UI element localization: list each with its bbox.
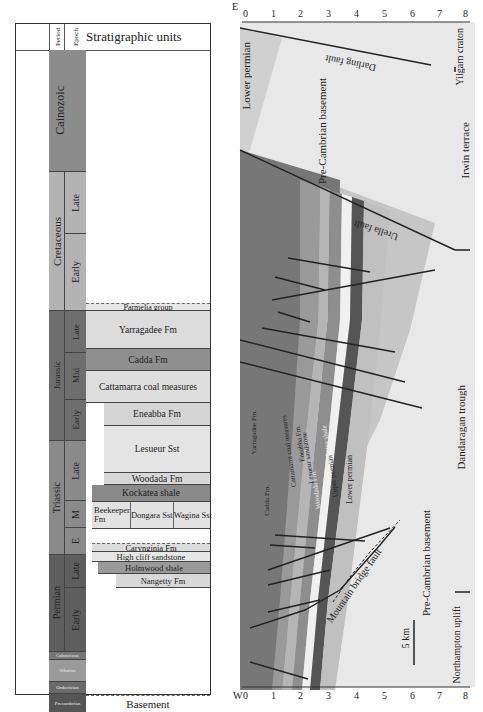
label-cadda: Cadda Fm. [263, 485, 271, 516]
unit-cadda: Cadda Fm [86, 349, 210, 371]
label-northampton-uplift: Northampton uplift [451, 606, 475, 684]
period-jurassic: Jurassic [49, 311, 64, 441]
period-silurian: Silurian [49, 660, 86, 682]
unit-permian-late-group: Beekeeper Fm Dongara Sst Wagina Sst [92, 502, 210, 529]
tick-top-7: 7 [437, 8, 442, 19]
label-precambrian-basement-top: Pre-Cambrian basement [316, 78, 328, 184]
column-title: Stratigraphic units [86, 29, 182, 45]
tick-bottom-3: 3 [326, 690, 331, 701]
unit-yarragadee: Yarragadee Fm [86, 311, 210, 349]
unit-cattamarra: Cattamarra coal measures [86, 371, 210, 403]
unit-eneabba: Eneabba Fm [104, 403, 210, 426]
unit-holmwood: Holmwood shale [98, 562, 210, 574]
unit-kockatea: Kockatea shale [92, 485, 210, 502]
tick-top-8: 8 [463, 8, 468, 19]
tick-bottom-0: 0 [243, 690, 248, 701]
epoch-triassic-early: E [64, 528, 86, 555]
stratigraphic-column: Period Epoch Stratigraphic units Cainozo… [15, 23, 211, 695]
label-yilgarn-craton: Yilgarn craton [454, 28, 478, 85]
tick-bottom-2: 2 [298, 690, 303, 701]
epoch-permian-late: Late [64, 555, 86, 588]
tick-top-3: 3 [326, 8, 331, 19]
east-label: E [232, 1, 238, 12]
epoch-cretaceous-late: Late [64, 172, 86, 234]
epoch-jurassic-early: Early [64, 400, 86, 441]
label-lower-permian-section: Lower permian [345, 455, 354, 504]
unit-basement: Basement [86, 695, 210, 712]
cross-section: E W 0 1 2 3 4 5 6 7 8 0 1 2 3 4 5 6 7 8 … [230, 0, 483, 706]
label-dandaragan-trough: Dandaragan trough [455, 385, 467, 470]
unit-lesueur: Lesueur Sst [104, 426, 210, 473]
tick-bottom-8: 8 [463, 690, 468, 701]
epoch-triassic-middle: M [64, 501, 86, 528]
tick-top-1: 1 [271, 8, 276, 19]
tick-top-4: 4 [354, 8, 359, 19]
cross-section-graphic [230, 0, 483, 706]
west-label: W [233, 690, 242, 701]
period-triassic: Triassic [49, 441, 64, 555]
period-precambrian: Precambrian [49, 694, 86, 712]
label-irwin-terrace: Irwin terrace [459, 122, 471, 179]
tick-bottom-7: 7 [437, 690, 442, 701]
column-header: Period Epoch Stratigraphic units [16, 24, 210, 51]
tick-bottom-1: 1 [271, 690, 276, 701]
period-cretaceous: Cretaceous [49, 172, 64, 311]
label-yarragadee: Yarragadee Fm. [250, 410, 258, 454]
tick-top-5: 5 [382, 8, 387, 19]
period-ordovician: Ordovician [49, 682, 86, 694]
epoch-permian-early: Early [64, 588, 86, 652]
unit-parmelia-group: Parmelia group [86, 303, 210, 311]
tick-top-6: 6 [410, 8, 415, 19]
period-header: Period [49, 24, 65, 50]
period-permian: Permian [49, 555, 64, 652]
tick-bottom-6: 6 [410, 690, 415, 701]
tick-bottom-4: 4 [354, 690, 359, 701]
unit-nangetty: Nangetty Fm [116, 574, 210, 588]
tick-top-0: 0 [243, 8, 248, 19]
epoch-jurassic-late: Late [64, 311, 86, 353]
unit-wagina: Wagina Sst [174, 510, 212, 520]
period-carboniferous: Carboniferous [49, 652, 86, 660]
scale-bar-label: 5 km [400, 628, 411, 648]
unit-woodada: Woodada Fm [104, 473, 210, 485]
unit-beekeeper: Beekeeper Fm [92, 502, 131, 528]
label-lower-permian-top: Lower permian [240, 42, 252, 110]
tick-top-2: 2 [298, 8, 303, 19]
unit-high-cliff: High cliff sandstone [92, 552, 210, 562]
epoch-jurassic-mid: Mid [64, 353, 86, 400]
epoch-triassic-late: Late [64, 441, 86, 501]
tick-bottom-5: 5 [382, 690, 387, 701]
label-precambrian-basement-bottom: Pre-Cambrian basement [420, 510, 432, 616]
epoch-header: Epoch [64, 24, 87, 50]
epoch-cretaceous-early: Early [64, 234, 86, 311]
unit-dongara: Dongara Sst [131, 502, 174, 528]
period-cainozoic: Cainozoic [49, 50, 86, 172]
